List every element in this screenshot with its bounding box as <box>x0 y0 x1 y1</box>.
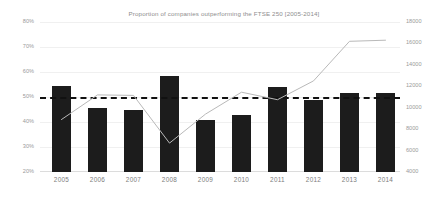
right-axis-tick: 10000 <box>406 105 422 111</box>
right-axis-tick: 8000 <box>406 126 418 132</box>
chart-title: Proportion of companies outperforming th… <box>0 10 448 17</box>
left-axis-tick: 70% <box>23 44 34 50</box>
x-axis-tick-2009: 2009 <box>198 176 213 183</box>
x-axis: 2005 2006 2007 2008 2009 2010 2011 2012 … <box>40 176 400 192</box>
left-axis-tick: 20% <box>23 169 34 175</box>
x-axis-tick-2014: 2014 <box>378 176 393 183</box>
left-axis-tick: 80% <box>23 19 34 25</box>
ftse-250-polyline <box>62 40 386 143</box>
x-axis-tick-2006: 2006 <box>90 176 105 183</box>
right-axis-tick: 14000 <box>406 62 422 68</box>
chart-container: Proportion of companies outperforming th… <box>0 0 448 205</box>
plot-area <box>40 22 400 172</box>
x-axis-tick-2005: 2005 <box>54 176 69 183</box>
right-axis-tick: 6000 <box>406 148 418 154</box>
right-axis-tick: 18000 <box>406 19 422 25</box>
left-axis-tick: 60% <box>23 69 34 75</box>
x-axis-tick-2013: 2013 <box>342 176 357 183</box>
x-axis-tick-2010: 2010 <box>234 176 249 183</box>
x-axis-tick-2011: 2011 <box>270 176 285 183</box>
ftse-250-line-series <box>40 22 400 172</box>
x-axis-tick-2012: 2012 <box>306 176 321 183</box>
left-axis-tick: 30% <box>23 144 34 150</box>
right-axis-tick: 16000 <box>406 40 422 46</box>
right-axis-tick: 12000 <box>406 83 422 89</box>
x-axis-tick-2007: 2007 <box>126 176 141 183</box>
right-axis-tick: 4000 <box>406 169 418 175</box>
x-axis-tick-2008: 2008 <box>162 176 177 183</box>
left-axis-tick: 40% <box>23 119 34 125</box>
right-axis: 18000 16000 14000 12000 10000 8000 6000 … <box>406 22 448 172</box>
left-axis-tick: 50% <box>23 94 34 100</box>
left-axis: 80% 70% 60% 50% 40% 30% 20% <box>0 22 34 172</box>
